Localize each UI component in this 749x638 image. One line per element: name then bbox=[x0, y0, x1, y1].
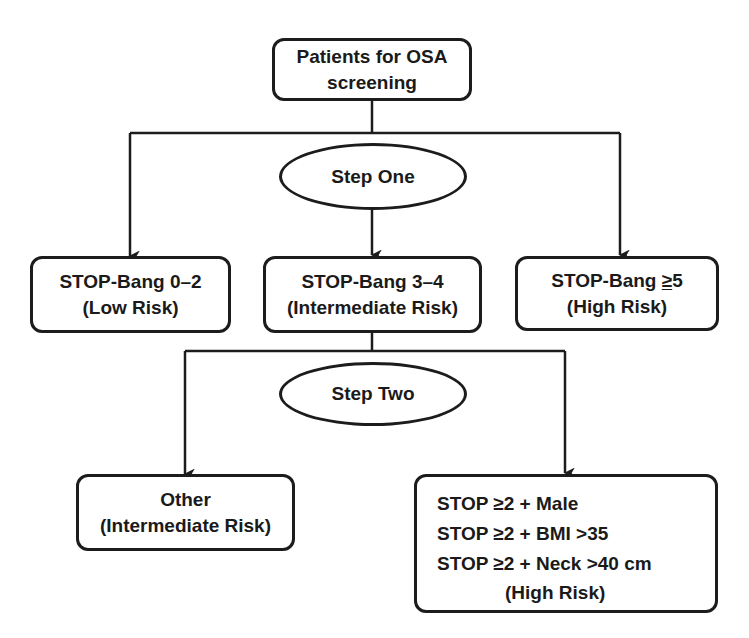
root-line2: screening bbox=[327, 70, 417, 96]
greater-equal-symbol: ≥ bbox=[662, 270, 672, 291]
intermediate-risk-node: STOP-Bang 3–4 (Intermediate Risk) bbox=[263, 256, 482, 333]
high-risk-label: (High Risk) bbox=[567, 294, 667, 320]
low-risk-label: (Low Risk) bbox=[82, 295, 178, 321]
high-criteria-risk-label: (High Risk) bbox=[437, 579, 605, 607]
high-risk-title-prefix: STOP-Bang bbox=[551, 270, 662, 291]
step-one-label: Step One bbox=[331, 166, 414, 188]
high-risk-title-value: 5 bbox=[672, 270, 683, 291]
criterion-prefix: STOP bbox=[437, 493, 493, 514]
other-title: Other bbox=[160, 487, 211, 513]
criterion-male: STOP ≥2 + Male bbox=[437, 489, 578, 519]
criterion-bmi: STOP ≥2 + BMI >35 bbox=[437, 519, 608, 549]
step-two-label: Step Two bbox=[331, 383, 414, 405]
criterion-rest: 2 + Male bbox=[504, 493, 578, 514]
greater-equal-symbol: ≥ bbox=[493, 553, 503, 574]
other-risk-label: (Intermediate Risk) bbox=[100, 513, 271, 539]
low-risk-title: STOP-Bang 0–2 bbox=[59, 269, 201, 295]
criterion-prefix: STOP bbox=[437, 523, 493, 544]
criterion-rest: 2 + Neck >40 cm bbox=[504, 553, 652, 574]
high-risk-title: STOP-Bang ≥5 bbox=[551, 268, 683, 294]
root-line1: Patients for OSA bbox=[297, 44, 448, 70]
criterion-prefix: STOP bbox=[437, 553, 493, 574]
high-risk-node: STOP-Bang ≥5 (High Risk) bbox=[515, 256, 719, 331]
osa-screening-flowchart: Patients for OSA screening Step One STOP… bbox=[0, 0, 749, 638]
other-intermediate-node: Other (Intermediate Risk) bbox=[76, 474, 295, 551]
criterion-rest: 2 + BMI >35 bbox=[504, 523, 609, 544]
step-two-node: Step Two bbox=[279, 362, 467, 426]
criterion-neck: STOP ≥2 + Neck >40 cm bbox=[437, 549, 652, 579]
step-one-node: Step One bbox=[279, 143, 467, 210]
high-risk-criteria-node: STOP ≥2 + Male STOP ≥2 + BMI >35 STOP ≥2… bbox=[414, 474, 718, 613]
greater-equal-symbol: ≥ bbox=[493, 523, 503, 544]
root-node: Patients for OSA screening bbox=[272, 38, 472, 101]
low-risk-node: STOP-Bang 0–2 (Low Risk) bbox=[30, 256, 231, 333]
greater-equal-symbol: ≥ bbox=[493, 493, 503, 514]
intermediate-risk-label: (Intermediate Risk) bbox=[287, 295, 458, 321]
intermediate-risk-title: STOP-Bang 3–4 bbox=[301, 269, 443, 295]
